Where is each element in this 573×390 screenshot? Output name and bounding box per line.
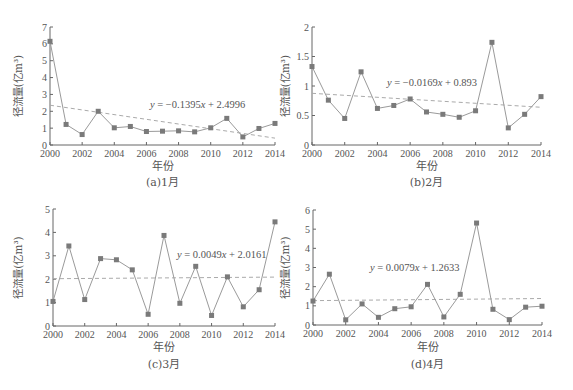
chart-caption: (a)1月	[146, 176, 179, 189]
data-point-marker	[256, 126, 261, 131]
data-point-marker	[128, 124, 133, 129]
x-axis-label: 年份	[153, 340, 175, 354]
data-point-marker	[425, 282, 430, 287]
data-point-marker	[327, 272, 332, 277]
data-point-marker	[474, 221, 479, 226]
data-point-marker	[64, 122, 69, 127]
y-tick-label: 1	[42, 123, 47, 134]
data-point-marker	[408, 96, 413, 101]
data-point-marker	[98, 256, 103, 261]
data-point-marker	[409, 304, 414, 309]
data-point-marker	[51, 299, 56, 304]
data-point-marker	[192, 129, 197, 134]
data-point-marker	[177, 301, 182, 306]
x-axis-label: 年份	[416, 159, 438, 173]
x-axis-label: 年份	[417, 340, 439, 354]
x-tick-label: 2014	[265, 329, 285, 340]
data-point-marker	[193, 264, 198, 269]
data-point-marker	[326, 98, 331, 103]
y-axis-label: 径流量(亿m³)	[12, 55, 24, 117]
trend-line	[312, 93, 541, 107]
y-tick-label: 6	[305, 205, 310, 216]
data-point-marker	[342, 116, 347, 121]
data-point-marker	[48, 39, 53, 44]
data-point-marker	[507, 317, 512, 322]
x-tick-label: 2010	[466, 148, 486, 159]
data-point-marker	[457, 115, 462, 120]
data-point-marker	[424, 109, 429, 114]
x-tick-label: 2012	[499, 328, 519, 339]
x-tick-label: 2010	[467, 328, 487, 339]
data-point-marker	[375, 106, 380, 111]
data-point-marker	[343, 317, 348, 322]
x-tick-label: 2004	[368, 328, 388, 339]
y-tick-label: 2	[304, 22, 309, 33]
x-tick-label: 2000	[303, 328, 323, 339]
x-tick-label: 2012	[233, 329, 253, 340]
y-tick-label: 4	[42, 72, 47, 83]
trend-equation: y = −0.0169x + 0.893	[386, 77, 477, 88]
x-tick-label: 2006	[401, 328, 421, 339]
y-tick-label: 5	[42, 55, 47, 66]
data-point-marker	[240, 134, 245, 139]
y-tick-label: 3	[305, 262, 310, 273]
y-tick-label: 2	[305, 281, 310, 292]
chart-b: 00.511.522000200220042006200820102012201…	[279, 22, 551, 190]
y-axis-label: 径流量(亿m³)	[279, 55, 291, 117]
y-tick-label: 1	[305, 300, 310, 311]
data-point-marker	[82, 297, 87, 302]
x-tick-label: 2004	[367, 148, 387, 159]
x-tick-label: 2014	[265, 148, 285, 159]
y-axis-label: 径流量(亿m³)	[12, 236, 24, 298]
y-tick-label: 6	[42, 38, 47, 49]
data-point-marker	[257, 287, 262, 292]
data-point-marker	[96, 109, 101, 114]
trend-line	[53, 277, 275, 279]
data-point-marker	[540, 304, 545, 309]
data-point-marker	[522, 112, 527, 117]
data-point-marker	[241, 304, 246, 309]
data-point-marker	[391, 103, 396, 108]
data-point-marker	[360, 301, 365, 306]
x-tick-label: 2010	[202, 329, 222, 340]
x-tick-label: 2010	[201, 148, 221, 159]
x-tick-label: 2014	[531, 148, 551, 159]
y-tick-label: 3	[42, 89, 47, 100]
data-point-marker	[162, 233, 167, 238]
x-tick-label: 2004	[106, 329, 126, 340]
x-tick-label: 2014	[532, 328, 552, 339]
x-tick-label: 2002	[72, 148, 92, 159]
data-point-marker	[473, 108, 478, 113]
x-tick-label: 2012	[233, 148, 253, 159]
data-point-marker	[359, 69, 364, 74]
chart-caption: (d)4月	[411, 358, 445, 371]
data-point-marker	[376, 315, 381, 320]
y-tick-label: 3	[45, 250, 50, 261]
data-point-marker	[176, 128, 181, 133]
x-tick-label: 2002	[336, 328, 356, 339]
data-point-marker	[441, 314, 446, 319]
data-point-marker	[311, 299, 316, 304]
data-point-marker	[114, 257, 119, 262]
chart-caption: (b)2月	[410, 176, 444, 189]
x-tick-label: 2002	[75, 329, 95, 340]
data-point-marker	[80, 132, 85, 137]
trend-equation: y = 0.0079x + 1.2633	[369, 262, 459, 273]
x-tick-label: 2008	[169, 148, 189, 159]
trend-equation: y = −0.1395x + 2.4996	[149, 99, 245, 110]
y-tick-label: 1	[304, 81, 309, 92]
data-point-marker	[146, 312, 151, 317]
data-point-marker	[130, 267, 135, 272]
x-axis-label: 年份	[152, 159, 174, 173]
y-tick-label: 7	[42, 22, 47, 33]
x-tick-label: 2002	[335, 148, 355, 159]
x-tick-label: 2008	[170, 329, 190, 340]
data-point-marker	[489, 40, 494, 45]
y-tick-label: 1.5	[297, 51, 310, 62]
data-point-marker	[310, 64, 315, 69]
x-tick-label: 2000	[302, 148, 322, 159]
data-point-marker	[458, 292, 463, 297]
y-tick-label: 4	[305, 243, 310, 254]
data-point-marker	[506, 125, 511, 130]
chart-d: 012345620002002200420062008201020122014y…	[279, 205, 552, 372]
